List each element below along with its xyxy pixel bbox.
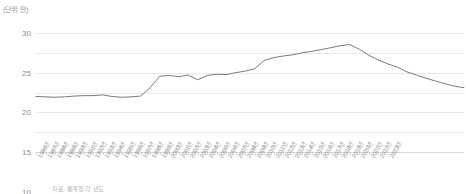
y-axis-tick-label: 15: [22, 148, 31, 157]
y-axis-tick-label: 25: [22, 68, 31, 77]
line-series: [36, 33, 464, 152]
plot-area: 051015202530: [36, 33, 464, 152]
y-axis-tick-label: 10: [22, 187, 31, 194]
y-axis-tick-label: 20: [22, 108, 31, 117]
chart-container: (단위: 만) 051015202530 1986년1987년1988년1989…: [0, 0, 466, 194]
unit-label: (단위: 만): [3, 4, 28, 14]
source-caption: 자료: 통계청 각 년도: [52, 184, 104, 193]
y-axis-tick-label: 30: [22, 29, 31, 38]
